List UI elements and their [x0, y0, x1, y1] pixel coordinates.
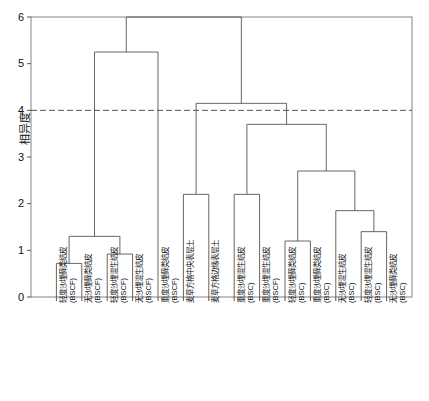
x-axis-label: 重度沙埋藓类结皮(BSC) [314, 247, 331, 303]
x-axis-label: 重度沙埋藓类结皮(BSCF) [162, 247, 179, 303]
x-axis-label: 轻度沙埋混生结皮(BSC) [365, 247, 382, 303]
x-axis-label: 无沙埋混生结皮(BSC) [339, 254, 356, 303]
x-axis-label: 轻度沙埋藓类结皮(BSC) [289, 247, 306, 303]
x-axis-label: 无沙埋藓类结皮(BSCF) [85, 254, 102, 303]
x-axis-label: 麦草方格边缘表层土 [212, 240, 221, 303]
x-axis-label: 轻度沙埋混生结皮(BSCF) [111, 247, 128, 303]
y-tick-label: 2 [18, 197, 24, 209]
y-axis-title: 相异度 [16, 88, 32, 168]
x-axis-label: 无沙埋藓类结皮(BSC) [390, 254, 407, 303]
x-axis-label: 重度沙埋混生结皮(BSCF) [263, 247, 280, 303]
y-tick-label: 1 [18, 244, 24, 256]
x-axis-label: 轻度沙埋藓类结皮(BSCF) [60, 247, 77, 303]
y-tick-label: 6 [18, 11, 24, 23]
x-axis-label: 无沙埋混生结皮(BSCF) [136, 254, 153, 303]
dendrogram-link [196, 103, 286, 194]
dendrogram-plot: 0123456 [0, 0, 429, 401]
dendrogram-link [247, 124, 326, 194]
y-tick-label: 5 [18, 57, 24, 69]
dendrogram-link [298, 171, 355, 241]
x-axis-label: 重度沙埋混生结皮(BSC) [238, 247, 255, 303]
x-axis-label: 麦草方格中央表层土 [187, 240, 196, 303]
y-tick-label: 0 [18, 291, 24, 303]
dendrogram-figure: 0123456 相异度 轻度沙埋藓类结皮(BSCF)无沙埋藓类结皮(BSCF)轻… [0, 0, 429, 401]
dendrogram-link [126, 17, 241, 103]
